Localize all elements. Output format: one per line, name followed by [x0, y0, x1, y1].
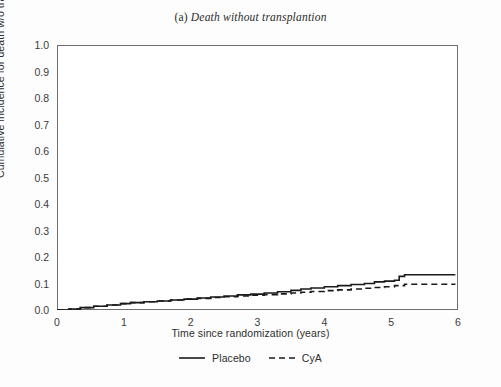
y-tick-label: 0.2	[34, 251, 49, 263]
legend-line-dashed-icon	[269, 353, 295, 363]
y-tick-label: 0.4	[34, 198, 49, 210]
y-tick-label: 0.8	[34, 92, 49, 104]
cumulative-incidence-chart	[57, 45, 458, 310]
y-tick-label: 0.7	[34, 119, 49, 131]
figure-title: (a) Death without transplantion	[0, 11, 501, 23]
legend-line-solid-icon	[179, 353, 205, 363]
y-tick-label: 0.0	[34, 304, 49, 316]
x-axis-title: Time since randomization (years)	[0, 327, 501, 339]
y-tick-label: 1.0	[34, 39, 49, 51]
chart-legend: PlaceboCyA	[0, 352, 501, 364]
axis-frame	[58, 46, 458, 310]
y-tick-label: 0.1	[34, 278, 49, 290]
y-tick-label: 0.3	[34, 225, 49, 237]
legend-entry-placebo: Placebo	[179, 352, 251, 364]
legend-label: Placebo	[212, 352, 251, 364]
legend-entry-cya: CyA	[269, 352, 322, 364]
figure-panel: (a) Death without transplantion 0.00.10.…	[0, 0, 501, 387]
legend-label: CyA	[302, 352, 322, 364]
figure-title-text: Death without transplantion	[191, 11, 327, 23]
y-tick-label: 0.5	[34, 172, 49, 184]
y-axis-title: Cumulative incidence for death w/o trans…	[0, 0, 6, 178]
panel-label: (a)	[174, 11, 187, 23]
plot-area: 0.00.10.20.30.40.50.60.70.80.91.0 012345…	[57, 45, 458, 310]
y-tick-label: 0.9	[34, 66, 49, 78]
y-tick-label: 0.6	[34, 145, 49, 157]
